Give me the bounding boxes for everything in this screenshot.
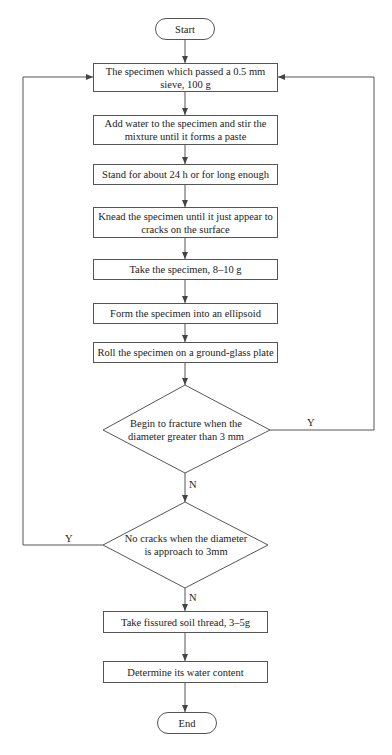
step2-line1: Add water to the specimen and stir the [105,117,267,130]
step4-line1: Knead the specimen until it just appear … [98,210,273,223]
step9-box: Determine its water content [103,661,268,683]
step6-label: Form the specimen into an ellipsoid [110,307,261,320]
step3-box: Stand for about 24 h or for long enough [93,164,278,185]
decision2-line2: is approach to 3mm [110,545,262,558]
step4-line2: cracks on the surface [141,223,229,236]
step1-line2: sieve, 100 g [160,78,210,91]
end-label: End [179,717,196,730]
end-terminal: End [157,712,217,734]
decision1-yes-label: Y [307,417,315,428]
step1-line1: The specimen which passed a 0.5 mm [106,65,266,78]
step4-box: Knead the specimen until it just appear … [93,207,278,238]
decision1-line2: diameter greater than 3 mm [110,430,262,443]
step5-box: Take the specimen, 8–10 g [93,259,278,280]
connector-lines [0,0,392,755]
step3-label: Stand for about 24 h or for long enough [102,168,269,181]
step7-label: Roll the specimen on a ground-glass plat… [97,346,273,359]
step2-line2: mixture until it forms a paste [125,130,247,143]
step9-label: Determine its water content [127,666,243,679]
decision1-no-label: N [189,479,197,490]
step5-label: Take the specimen, 8–10 g [129,263,241,276]
step1-box: The specimen which passed a 0.5 mm sieve… [93,63,278,92]
decision2-yes-label: Y [65,533,73,544]
decision1-text: Begin to fracture when the diameter grea… [110,417,262,443]
step8-label: Take fissured soil thread, 3–5g [121,616,250,629]
step6-box: Form the specimen into an ellipsoid [93,303,278,324]
decision2-line1: No cracks when the diameter [110,532,262,545]
decision2-no-label: N [189,592,197,603]
decision1-line1: Begin to fracture when the [110,417,262,430]
start-terminal: Start [155,18,215,40]
step7-box: Roll the specimen on a ground-glass plat… [93,342,278,363]
step8-box: Take fissured soil thread, 3–5g [103,611,268,633]
decision2-text: No cracks when the diameter is approach … [110,532,262,558]
start-label: Start [175,23,195,36]
step2-box: Add water to the specimen and stir the m… [93,115,278,145]
